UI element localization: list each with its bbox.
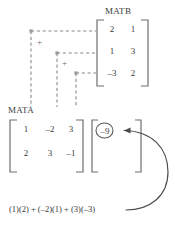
mata-cell-r2c1: 2 <box>19 148 33 158</box>
mata-cell-r2c2: 3 <box>43 148 57 158</box>
mata-label: MATA <box>8 105 34 115</box>
mata-cell-r1c1: 1 <box>19 124 33 134</box>
matb-cell-r1c2: 1 <box>126 24 140 34</box>
dot-product-equation: (1)(2) + (–2)(1) + (3)(–3) <box>9 204 95 214</box>
mata-cell-r1c2: –2 <box>41 124 59 134</box>
matb-bracket-right <box>141 20 148 86</box>
connector-node-1 <box>29 29 32 32</box>
result-bracket-right <box>135 120 141 172</box>
connector-plus-2: + <box>62 58 67 68</box>
mata-cell-r1c3: 3 <box>64 124 78 134</box>
connector-path-3 <box>74 71 96 107</box>
matb-cell-r2c1: 1 <box>105 46 119 56</box>
matb-cell-r3c1: –3 <box>103 68 121 78</box>
mata-cell-r2c3: –1 <box>62 148 80 158</box>
connector-node-2 <box>55 51 58 54</box>
mata-bracket-left <box>10 120 17 172</box>
arrow-head-icon <box>124 128 131 134</box>
matb-cell-r3c2: 2 <box>126 68 140 78</box>
equation-to-result-arrow <box>124 128 168 210</box>
connector-node-3 <box>74 71 77 74</box>
matb-cell-r2c2: 3 <box>126 46 140 56</box>
matb-cell-r1c1: 2 <box>105 24 119 34</box>
matrix-multiplication-diagram: MATB 2 1 1 3 –3 2 + + MATA 1 –2 3 2 3 –1… <box>0 0 175 228</box>
connector-plus-1: + <box>37 37 42 47</box>
matb-label: MATB <box>105 6 131 16</box>
result-cell-r1c1: –9 <box>96 126 114 136</box>
